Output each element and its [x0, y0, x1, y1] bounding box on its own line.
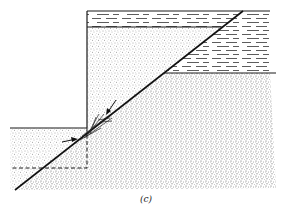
fault-cross-section-diagram [0, 0, 292, 210]
footwall-shale-layer [87, 11, 243, 27]
figure-caption: (c) [0, 194, 292, 204]
